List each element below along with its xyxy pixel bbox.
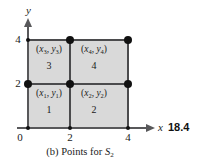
caption-prefix: (b) [46,146,58,157]
figure-caption: (b) Points for S2 [0,146,160,157]
paren-close: ) [104,88,107,98]
coord-y-symbol: y [96,88,100,98]
coord-y-subscript: 4 [101,48,104,55]
y-tick-label-2: 2 [12,77,24,89]
data-point-x4-y4 [124,36,132,44]
coord-y-symbol: y [51,44,55,54]
paren-close: ) [104,44,107,54]
cell-4-number: 4 [72,60,116,71]
paren-close: ) [59,88,62,98]
x-tick-label-2: 2 [64,131,76,143]
corner-point-origin [26,126,30,130]
figure-container: y x 4 2 0 2 4 (x3, y3) 3 (x4, y4) 4 (x1,… [0,0,209,166]
paren-close: ) [59,44,62,54]
cell-1-number: 1 [29,104,69,115]
coord-x-subscript: 1 [43,92,46,99]
coord-y-symbol: y [51,88,55,98]
cell-4-coordinate-label: (x4, y4) [72,44,116,54]
cell-1-coordinate-label: (x1, y1) [29,88,69,98]
corner-point-x0-y4 [26,38,30,42]
coord-x-subscript: 4 [88,48,91,55]
cell-2-coordinate-label: (x2, y2) [72,88,116,98]
data-point-x0-y2 [24,80,32,88]
y-axis-label: y [26,4,31,16]
figure-number: 18.4 [168,121,189,133]
caption-text: Points for [61,146,102,157]
coord-y-subscript: 3 [56,48,59,55]
coord-y-subscript: 1 [56,92,59,99]
y-tick-label-4: 4 [12,33,24,45]
gridline-horizontal-y2 [28,83,128,85]
corner-point-x2-y0 [68,126,72,130]
cell-3-coordinate-label: (x3, y3) [29,44,69,54]
coord-x-subscript: 3 [43,48,46,55]
corner-point-x4-y0 [126,126,130,130]
cell-2-number: 2 [72,104,116,115]
coord-y-symbol: y [96,44,100,54]
x-axis-arrow-icon [146,124,155,132]
x-tick-label-4: 4 [122,131,134,143]
caption-symbol-subscript: 2 [110,151,114,159]
x-axis-label: x [158,121,163,133]
coord-x-subscript: 2 [88,92,91,99]
region-top-edge [28,39,128,41]
data-point-x4-y2 [124,80,132,88]
cell-3-number: 3 [29,60,69,71]
coord-y-subscript: 2 [101,92,104,99]
y-axis-arrow-icon [24,18,32,27]
origin-label: 0 [14,131,26,143]
data-point-x2-y4 [66,36,74,44]
data-point-x2-y2 [66,80,74,88]
